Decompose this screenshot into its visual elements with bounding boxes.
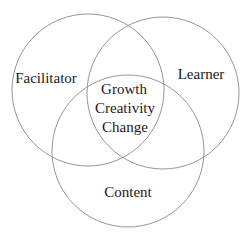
content-circle — [52, 75, 204, 227]
content-label: Content — [104, 184, 152, 200]
intersection-growth: Growth — [101, 81, 147, 97]
venn-diagram: Facilitator Learner Content Growth Creat… — [0, 0, 251, 241]
intersection-change: Change — [102, 119, 148, 135]
facilitator-label: Facilitator — [15, 70, 77, 86]
intersection-creativity: Creativity — [95, 100, 155, 116]
learner-label: Learner — [178, 66, 225, 82]
